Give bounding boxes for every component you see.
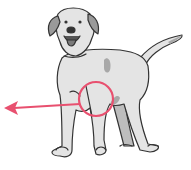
dog-illustration — [0, 0, 191, 170]
dog-drawing — [0, 0, 191, 170]
nose — [67, 27, 75, 33]
